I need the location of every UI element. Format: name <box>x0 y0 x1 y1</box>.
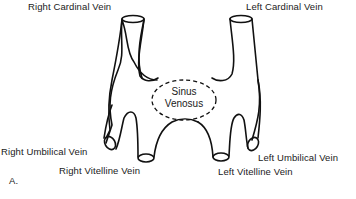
label-right-vitelline-vein: Right Vitelline Vein <box>59 165 140 176</box>
right-cardinal-opening <box>122 16 144 23</box>
label-left-umbilical-vein: Left Umbilical Vein <box>258 152 338 163</box>
left-cardinal-opening <box>230 16 252 23</box>
panel-label: A. <box>9 175 18 186</box>
label-left-cardinal-vein: Left Cardinal Vein <box>246 1 323 12</box>
label-right-cardinal-vein: Right Cardinal Vein <box>28 1 111 12</box>
label-sinus-venosus: Sinus Venosus <box>160 86 208 110</box>
left-vitelline-opening <box>213 153 229 161</box>
label-sinus-line2: Venosus <box>160 98 208 110</box>
label-left-vitelline-vein: Left Vitelline Vein <box>218 166 293 177</box>
label-right-umbilical-vein: Right Umbilical Vein <box>1 146 87 157</box>
right-vitelline-opening <box>138 154 154 162</box>
label-sinus-line1: Sinus <box>160 86 208 98</box>
